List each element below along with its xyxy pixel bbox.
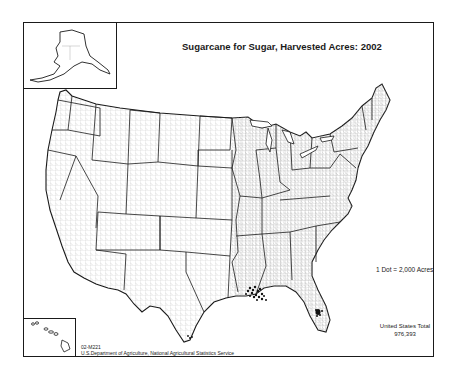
us-total: United States Total 976,393 — [368, 322, 442, 338]
dot-legend: 1 Dot = 2,000 Acres — [376, 266, 433, 273]
map-title: Sugarcane for Sugar, Harvested Acres: 20… — [182, 41, 382, 52]
agency-credit: U.S.Department of Agriculture, National … — [81, 350, 234, 356]
alaska-inset — [23, 22, 117, 89]
hawaii-inset — [23, 318, 76, 357]
us-total-value: 976,393 — [368, 330, 442, 338]
source-credit: 02-M221 U.S.Department of Agriculture, N… — [81, 344, 234, 356]
us-total-label: United States Total — [368, 322, 442, 330]
